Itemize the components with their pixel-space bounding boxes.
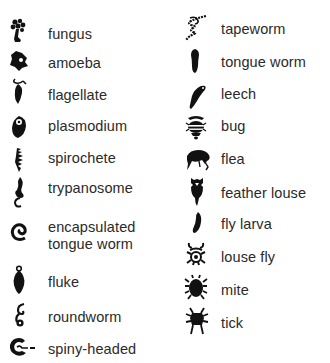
bug-icon <box>184 114 208 140</box>
legend-label: mite <box>221 282 249 298</box>
legend-label: spirochete <box>48 150 116 166</box>
legend-label: trypanosome <box>48 180 133 196</box>
encapsulated-tongue-worm-icon <box>10 222 30 242</box>
legend-label: flagellate <box>48 87 107 103</box>
plasmodium-icon <box>10 115 28 139</box>
legend-label: amoeba <box>48 55 101 71</box>
flagellate-icon <box>9 77 29 105</box>
mite-icon <box>184 274 208 300</box>
legend-label: feather louse <box>221 185 306 201</box>
trypanosome-icon <box>9 176 29 210</box>
spirochete-icon <box>11 147 27 173</box>
legend-label: flea <box>221 151 245 167</box>
flea-icon <box>184 148 212 172</box>
legend-label: fly larva <box>221 216 272 232</box>
legend-label: tapeworm <box>221 21 285 37</box>
amoeba-icon <box>9 50 29 72</box>
roundworm-icon <box>12 302 28 328</box>
fluke-icon <box>11 265 27 295</box>
legend-label: fungus <box>48 26 92 42</box>
legend-label: tick <box>221 315 243 331</box>
legend-label-line2: tongue worm <box>48 236 133 252</box>
leech-icon <box>186 84 208 110</box>
legend-label: louse fly <box>221 249 275 265</box>
fungus-icon <box>8 18 28 44</box>
feather-louse-icon <box>188 177 206 207</box>
legend-label: bug <box>221 118 246 134</box>
legend-label: plasmodium <box>48 118 127 134</box>
tapeworm-icon <box>183 13 209 41</box>
louse-fly-icon <box>184 241 208 267</box>
legend-label: roundworm <box>48 309 121 325</box>
legend-label: encapsulated <box>48 219 135 235</box>
legend-label: spiny-headed <box>48 341 136 357</box>
legend-label: leech <box>221 86 256 102</box>
tick-icon <box>185 306 209 336</box>
tongue-worm-icon <box>188 48 202 74</box>
spiny-headed-icon <box>8 336 38 358</box>
legend-label: tongue worm <box>221 54 306 70</box>
fly-larva-icon <box>190 211 204 235</box>
legend-label: fluke <box>48 274 79 290</box>
